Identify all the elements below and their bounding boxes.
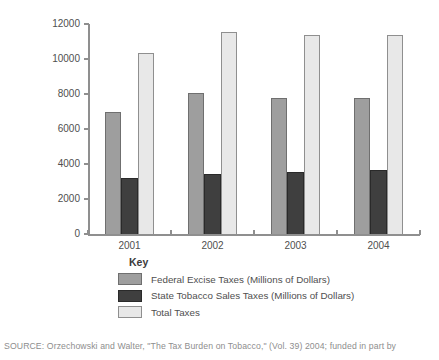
y-tick-label: 10000 [36,53,80,65]
legend-swatch-federal-excise-taxes [118,273,142,285]
tobacco-taxes-figure: 020004000600080001000012000 200120022003… [0,0,439,360]
bar-total-taxes-2001 [138,53,155,234]
y-tick-label: 4000 [36,158,80,170]
x-tick-label-2004: 2004 [359,240,399,252]
bar-state-tobacco-sales-taxes-2002 [204,174,221,234]
legend-item-total-taxes: Total Taxes [118,306,354,318]
x-tick [170,230,171,236]
x-tick [87,230,88,236]
y-tick-label: 2000 [36,193,80,205]
bar-federal-excise-taxes-2002 [188,93,205,234]
x-tick [336,230,337,236]
legend: Key Federal Excise Taxes (Millions of Do… [118,256,354,323]
legend-title: Key [129,256,354,268]
bar-state-tobacco-sales-taxes-2003 [287,172,304,234]
legend-swatch-state-tobacco-sales-taxes [118,290,142,302]
y-tick [84,128,89,129]
legend-item-state-tobacco-sales-taxes: State Tobacco Sales Taxes (Millions of D… [118,290,354,302]
x-tick-label-2001: 2001 [110,240,150,252]
y-tick [84,58,89,59]
bar-federal-excise-taxes-2004 [354,98,371,234]
x-tick-label-2002: 2002 [193,240,233,252]
y-tick [84,163,89,164]
y-tick [84,198,89,199]
y-tick-label: 8000 [36,88,80,100]
bar-state-tobacco-sales-taxes-2001 [121,178,138,234]
bar-federal-excise-taxes-2001 [105,112,122,235]
bar-total-taxes-2004 [387,35,404,235]
legend-swatch-total-taxes [118,306,142,318]
x-tick [253,230,254,236]
bar-state-tobacco-sales-taxes-2004 [370,170,387,234]
legend-label-state-tobacco-sales-taxes: State Tobacco Sales Taxes (Millions of D… [151,290,354,301]
legend-rows: Federal Excise Taxes (Millions of Dollar… [118,273,354,318]
x-tick [419,230,420,236]
y-tick-label: 12000 [36,18,80,30]
legend-item-federal-excise-taxes: Federal Excise Taxes (Millions of Dollar… [118,273,354,285]
legend-label-federal-excise-taxes: Federal Excise Taxes (Millions of Dollar… [151,274,330,285]
bar-federal-excise-taxes-2003 [271,98,288,235]
source-note: SOURCE: Orzechowski and Walter, "The Tax… [4,341,438,351]
y-tick-label: 0 [36,228,80,240]
y-tick-label: 6000 [36,123,80,135]
legend-label-total-taxes: Total Taxes [151,307,200,318]
y-tick [84,23,89,24]
bar-total-taxes-2003 [304,35,321,235]
y-tick [84,93,89,94]
bar-total-taxes-2002 [221,32,238,234]
x-tick-label-2003: 2003 [276,240,316,252]
